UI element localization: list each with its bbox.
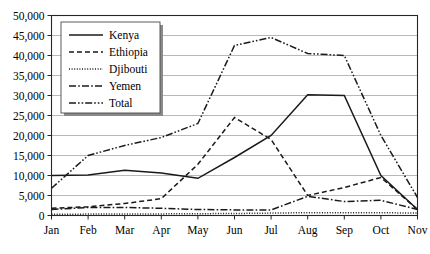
y-tick-label: 10,000 bbox=[13, 170, 45, 183]
y-axis-tick-labels: 05,00010,00015,00020,00025,00030,00035,0… bbox=[13, 10, 45, 222]
y-tick-label: 25,000 bbox=[13, 110, 45, 123]
x-tick-label: Jun bbox=[227, 224, 243, 236]
x-tick-label: Sep bbox=[336, 224, 354, 237]
y-tick-label: 35,000 bbox=[13, 70, 45, 83]
legend-label-djibouti: Djibouti bbox=[109, 63, 147, 76]
series-line-yemen bbox=[52, 196, 418, 210]
y-tick-label: 30,000 bbox=[13, 90, 45, 103]
chart-canvas: 05,00010,00015,00020,00025,00030,00035,0… bbox=[0, 0, 430, 254]
x-tick-label: Aug bbox=[298, 224, 318, 237]
y-tick-label: 50,000 bbox=[13, 10, 45, 23]
x-tick-label: Jul bbox=[264, 224, 277, 236]
series-line-djibouti bbox=[52, 213, 418, 215]
x-tick-label: Oct bbox=[373, 224, 390, 236]
legend-label-total: Total bbox=[109, 97, 132, 109]
y-tick-label: 40,000 bbox=[13, 50, 45, 63]
x-tick-label: Nov bbox=[408, 224, 428, 236]
x-tick-label: Mar bbox=[115, 224, 134, 236]
y-tick-label: 5,000 bbox=[19, 190, 45, 203]
x-tick-label: Apr bbox=[152, 224, 170, 237]
x-tick-label: Feb bbox=[79, 224, 97, 236]
legend-label-ethiopia: Ethiopia bbox=[109, 46, 148, 59]
legend-label-yemen: Yemen bbox=[109, 80, 141, 92]
y-tick-label: 0 bbox=[39, 210, 45, 222]
x-tick-label: Jan bbox=[44, 224, 60, 236]
x-axis-ticks bbox=[52, 216, 418, 220]
y-tick-label: 15,000 bbox=[13, 150, 45, 163]
y-axis-ticks bbox=[48, 16, 52, 216]
y-tick-label: 45,000 bbox=[13, 30, 45, 43]
legend-label-kenya: Kenya bbox=[109, 29, 139, 42]
line-chart: 05,00010,00015,00020,00025,00030,00035,0… bbox=[0, 0, 430, 254]
y-tick-label: 20,000 bbox=[13, 130, 45, 143]
x-tick-label: May bbox=[187, 224, 208, 237]
chart-legend: KenyaEthiopiaDjiboutiYemenTotal bbox=[61, 22, 163, 116]
x-axis-tick-labels: JanFebMarAprMayJunJulAugSepOctNov bbox=[44, 224, 428, 237]
